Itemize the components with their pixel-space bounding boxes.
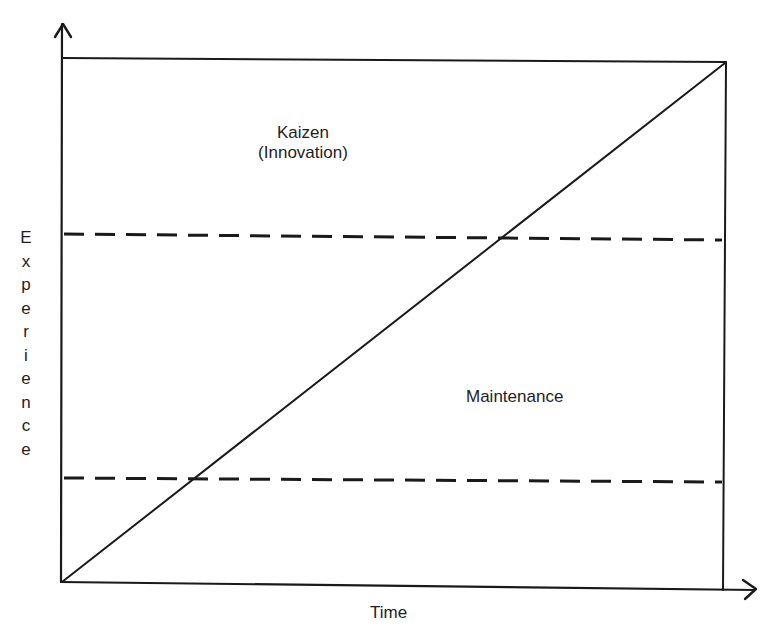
- y-axis-label-letter: i: [24, 344, 28, 368]
- top-border-line: [62, 58, 726, 62]
- upper-dashed-divider: [64, 234, 722, 240]
- y-axis-label-letter: n: [21, 391, 30, 415]
- kaizen-maintenance-diagram: [0, 0, 770, 634]
- y-axis-label-letter: p: [21, 273, 30, 297]
- y-axis-label-letter: e: [21, 367, 30, 391]
- y-axis-label-letter: c: [22, 414, 31, 438]
- diagonal-line: [62, 63, 725, 582]
- y-axis-label-letter: E: [20, 226, 31, 250]
- kaizen-region-label: Kaizen (Innovation): [238, 123, 368, 164]
- y-axis-label-letter: r: [23, 320, 29, 344]
- y-axis-label-letter: e: [21, 438, 30, 462]
- lower-dashed-divider: [64, 478, 722, 482]
- x-axis-line: [61, 582, 755, 590]
- y-axis-label-letter: e: [21, 297, 30, 321]
- kaizen-label-line1: Kaizen: [238, 123, 368, 143]
- maintenance-region-label: Maintenance: [466, 387, 563, 407]
- right-border-line: [723, 62, 726, 590]
- x-axis-label: Time: [370, 603, 407, 623]
- y-axis-label-letter: x: [22, 250, 31, 274]
- y-axis-label: Experience: [18, 226, 34, 461]
- y-axis-line: [61, 24, 62, 582]
- kaizen-label-line2: (Innovation): [238, 143, 368, 163]
